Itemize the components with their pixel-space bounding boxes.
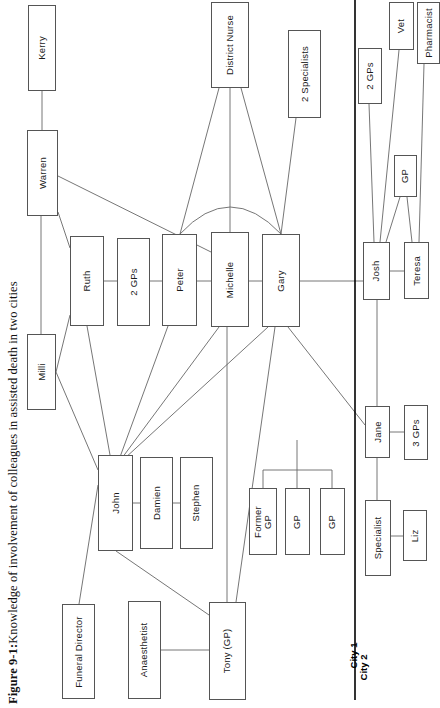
- node-label-former_gp: Former GP: [253, 506, 273, 538]
- node-warren[interactable]: Warren: [27, 130, 58, 216]
- node-anaesthetist[interactable]: Anaesthetist: [128, 601, 161, 699]
- edge-district_nurse-to-gary: [241, 88, 281, 234]
- node-peter[interactable]: Peter: [162, 234, 197, 326]
- node-gp_mid2[interactable]: GP: [320, 488, 345, 555]
- edge-gp_c2-to-teresa: [407, 197, 412, 242]
- node-label-kerry: Kerry: [37, 36, 47, 60]
- node-district_nurse[interactable]: District Nurse: [211, 2, 249, 88]
- node-two_gps_c1[interactable]: 2 GPs: [117, 238, 150, 326]
- node-gp_mid1[interactable]: GP: [285, 488, 310, 555]
- node-damien[interactable]: Damien: [140, 457, 173, 549]
- node-label-three_gps: 3 GPs: [411, 419, 421, 446]
- node-label-ruth: Ruth: [82, 271, 92, 292]
- edge-milli-to-john: [56, 372, 98, 470]
- edge-peter-to-gary: [180, 207, 281, 234]
- node-milli[interactable]: Milli: [27, 334, 56, 410]
- edge-two_specialists-to-gary: [281, 118, 296, 234]
- city-2-label: City 2: [358, 645, 369, 691]
- node-label-warren: Warren: [38, 157, 48, 189]
- node-label-tony_gp: Tony (GP): [223, 629, 233, 674]
- node-label-gp_mid1: GP: [293, 514, 303, 528]
- node-john[interactable]: John: [98, 455, 133, 551]
- edge-john-to-funeral_director: [79, 485, 98, 604]
- edge-pharmacist-to-teresa: [419, 64, 424, 242]
- node-liz[interactable]: Liz: [403, 510, 427, 561]
- edge-gary-to-tony_gp: [236, 327, 275, 602]
- node-label-vet: Vet: [397, 19, 407, 33]
- node-label-specialist: Specialist: [373, 517, 383, 560]
- node-specialist[interactable]: Specialist: [365, 500, 391, 576]
- node-gary[interactable]: Gary: [262, 234, 300, 327]
- edge-two_gps_c2-to-josh: [369, 104, 374, 242]
- node-label-funeral_director: Funeral Director: [74, 616, 84, 687]
- node-gp_c2[interactable]: GP: [394, 155, 417, 197]
- node-label-pharmacist: Pharmacist: [424, 8, 434, 58]
- node-funeral_director[interactable]: Funeral Director: [62, 604, 95, 699]
- node-label-two_gps_c1: 2 GPs: [129, 268, 139, 295]
- node-label-milli: Milli: [37, 363, 47, 380]
- edge-peter-to-john: [120, 326, 168, 457]
- edge-vet-to-josh: [380, 50, 399, 242]
- node-label-gp_mid2: GP: [328, 514, 338, 528]
- edge-bracket-to-gp_group: [263, 470, 332, 488]
- node-three_gps[interactable]: 3 GPs: [404, 405, 428, 460]
- node-jane[interactable]: Jane: [365, 406, 390, 458]
- edge-gary-to-john: [124, 327, 268, 459]
- node-label-liz: Liz: [410, 529, 420, 542]
- node-label-michelle: Michelle: [225, 261, 235, 297]
- edge-gary-to-jane: [288, 327, 365, 425]
- figure-root: Figure 9-1: Knowledge of involvement of …: [0, 0, 440, 708]
- node-josh[interactable]: Josh: [363, 242, 390, 300]
- node-label-gp_c2: GP: [401, 169, 411, 183]
- node-label-anaesthetist: Anaesthetist: [140, 623, 150, 678]
- node-label-teresa: Teresa: [412, 256, 422, 286]
- node-ruth[interactable]: Ruth: [70, 236, 104, 326]
- edge-district_nurse-to-peter: [180, 88, 219, 234]
- edge-ruth-to-john: [87, 326, 110, 455]
- node-michelle[interactable]: Michelle: [211, 232, 249, 327]
- node-label-two_specialists: 2 Specialists: [300, 46, 310, 102]
- node-label-josh: Josh: [372, 261, 382, 282]
- node-label-peter: Peter: [175, 268, 185, 292]
- node-label-john: John: [111, 492, 121, 513]
- node-label-gary: Gary: [276, 270, 286, 291]
- node-teresa[interactable]: Teresa: [404, 242, 429, 299]
- node-label-jane: Jane: [373, 421, 383, 442]
- node-label-damien: Damien: [152, 486, 162, 520]
- node-former_gp[interactable]: Former GP: [249, 488, 277, 555]
- edge-warren-to-ruth: [58, 212, 70, 248]
- node-label-two_gps_c2: 2 GPs: [365, 62, 375, 89]
- node-label-stephen: Stephen: [192, 485, 202, 522]
- edge-michelle-to-john: [122, 327, 219, 458]
- node-vet[interactable]: Vet: [389, 2, 414, 50]
- edge-ruth-to-milli: [56, 315, 70, 372]
- edge-gp_c2-to-josh: [386, 197, 400, 242]
- node-two_specialists[interactable]: 2 Specialists: [288, 30, 321, 118]
- node-pharmacist[interactable]: Pharmacist: [417, 2, 440, 64]
- node-tony_gp[interactable]: Tony (GP): [209, 602, 246, 700]
- node-stephen[interactable]: Stephen: [180, 457, 213, 549]
- node-label-district_nurse: District Nurse: [225, 15, 235, 75]
- node-two_gps_c2[interactable]: 2 GPs: [358, 48, 382, 104]
- node-kerry[interactable]: Kerry: [28, 5, 56, 91]
